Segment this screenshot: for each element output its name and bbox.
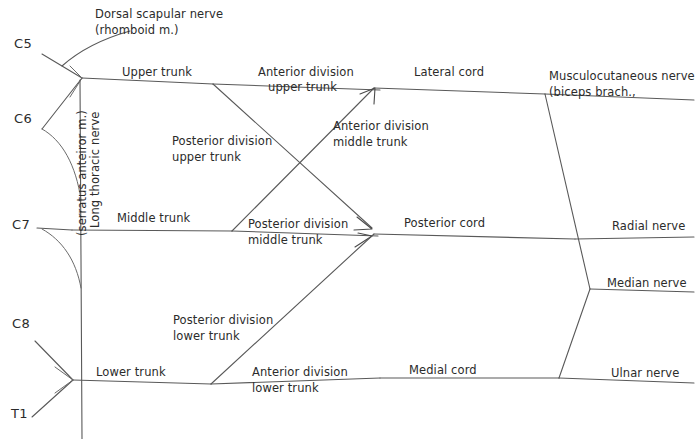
lower-trunk-line [73,380,211,384]
radial-nerve-label: Radial nerve [612,220,685,234]
anterior-division-upper-trunk-label-line2: upper trunk [268,81,337,95]
posterior-division-middle-trunk-label-line2: middle trunk [248,234,323,248]
anterior-division-lower-trunk-label-line1: Anterior division [252,366,348,380]
anterior-division-middle-trunk-line [232,88,374,231]
median-nerve-label: Median nerve [607,277,687,291]
anterior-division-middle-trunk-label-line1: Anterior division [333,120,429,134]
root-label-t1: T1 [11,407,28,421]
dorsal-scapular-nerve-label-line1: Dorsal scapular nerve [95,8,223,22]
posterior-division-upper-trunk-label-line1: Posterior division [172,135,272,149]
posterior-division-middle-trunk-label-line1: Posterior division [248,218,348,232]
long-thoracic-nerve-label-line1: Long thoracic nerve [89,112,103,228]
posterior-division-lower-trunk-label-line1: Posterior division [173,314,273,328]
ulnar-nerve-label: Ulnar nerve [611,367,679,381]
lateral-cord-label: Lateral cord [414,66,484,80]
posterior-cord-line [374,234,575,239]
posterior-cord-label: Posterior cord [404,217,485,231]
lower-trunk-label: Lower trunk [96,366,166,380]
musculocutaneous-nerve-label-line2: (biceps brach., [549,86,636,100]
root-label-c6: C6 [14,112,32,126]
lateral-cord-arrow-middle [360,88,375,104]
upper-trunk-label: Upper trunk [122,66,192,80]
posterior-division-lower-trunk-label-line2: lower trunk [173,330,240,344]
root-line-c8 [35,341,73,380]
root-line-t1 [32,380,73,417]
radial-nerve-line [575,237,694,239]
middle-trunk-label: Middle trunk [117,212,190,226]
musculocutaneous-nerve-label-line1: Musculocutaneous nerve [549,70,695,84]
anterior-division-upper-trunk-label-line1: Anterior division [258,66,354,80]
median-nerve-lateral-root-line [545,94,590,289]
dorsal-scapular-nerve-label-line2: (rhomboid m.) [95,24,179,38]
anterior-division-middle-trunk-label-line2: middle trunk [333,136,408,150]
long-thoracic-branch-c7 [42,229,81,288]
posterior-division-lower-trunk-line [211,234,374,384]
anterior-division-lower-trunk-label-line2: lower trunk [252,382,319,396]
medial-cord-label: Medial cord [409,364,477,378]
brachial-plexus-diagram: C5 C6 C7 C8 T1 Dorsal scapular nerve (rh… [0,0,696,439]
posterior-division-upper-trunk-label-line2: upper trunk [172,151,241,165]
root-label-c7: C7 [12,218,30,232]
lateral-cord-line [374,88,545,94]
median-nerve-medial-root-line [559,289,590,378]
middle-trunk-line [72,230,232,231]
root-label-c8: C8 [12,317,30,331]
long-thoracic-nerve-label-line2: (serratus anteiror m.) [76,110,90,236]
root-label-c5: C5 [14,37,32,51]
posterior-cord-arrow-upper [354,217,372,230]
